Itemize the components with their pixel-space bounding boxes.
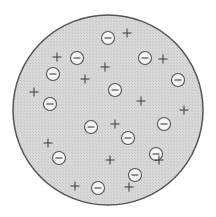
negative-charge-icon xyxy=(122,132,135,145)
negative-charge-icon xyxy=(85,121,98,134)
negative-charge-icon xyxy=(47,68,60,81)
negative-charge-icon xyxy=(158,118,171,131)
negative-charge-icon xyxy=(129,169,142,182)
charge-diagram xyxy=(0,0,216,217)
negative-charge-icon xyxy=(44,98,57,111)
negative-charge-icon xyxy=(172,74,185,87)
negative-charge-icon xyxy=(71,52,84,65)
negative-charge-icon xyxy=(53,152,66,165)
negative-charge-icon xyxy=(102,32,115,45)
negative-charge-icon xyxy=(109,84,122,97)
negative-charge-icon xyxy=(92,182,105,195)
negative-charge-icon xyxy=(139,52,152,65)
negative-charge-icon xyxy=(150,148,163,161)
